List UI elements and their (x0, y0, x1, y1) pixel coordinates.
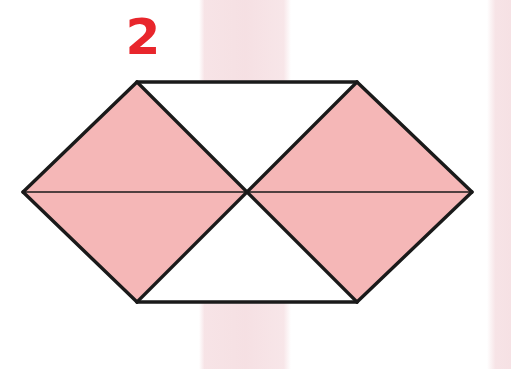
hexagon-figure (0, 0, 511, 369)
figure-number-label: 2 (123, 12, 163, 62)
figure-canvas: 2 (0, 0, 511, 369)
